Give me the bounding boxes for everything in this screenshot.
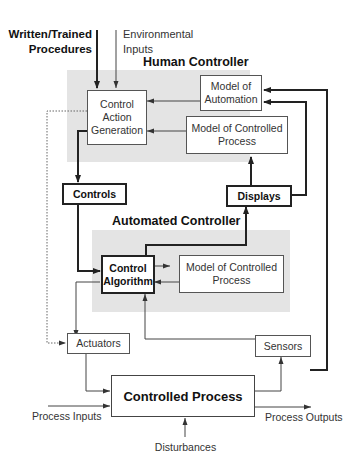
cag-to-controls-arrow [78, 131, 87, 182]
process-to-sensors-arrow [255, 357, 281, 391]
process-outputs-label: Process Outputs [265, 411, 350, 424]
control-algorithm-box: Control Algorithm [101, 255, 155, 294]
sensors-to-algorithm-arrow [145, 294, 255, 339]
actuators-to-process-arrow [86, 353, 110, 391]
model-of-automation-box: Model of Automation [200, 75, 262, 111]
cag-to-actuators-dotted-arrow [47, 111, 87, 343]
controlled-process-box: Controlled Process [111, 375, 255, 417]
disturbances-label: Disturbances [148, 441, 223, 454]
control-action-generation-box: Control Action Generation [87, 90, 147, 145]
automated-model-of-controlled-process-box: Model of Controlled Process [179, 255, 284, 293]
controls-to-algorithm-arrow [78, 203, 100, 271]
automated-controller-title: Automated Controller [112, 214, 240, 228]
environmental-label: Environmental Inputs [123, 27, 203, 57]
actuators-box: Actuators [67, 333, 130, 354]
procedures-label: Written/Trained Procedures [8, 27, 92, 57]
process-inputs-label: Process Inputs [32, 410, 102, 423]
controls-box: Controls [62, 183, 127, 205]
algorithm-to-actuators-arrow [76, 282, 100, 337]
human-controller-title: Human Controller [143, 55, 249, 69]
sensors-box: Sensors [255, 335, 311, 357]
human-model-of-controlled-process-box: Model of Controlled Process [186, 116, 288, 154]
displays-box: Displays [226, 185, 292, 207]
